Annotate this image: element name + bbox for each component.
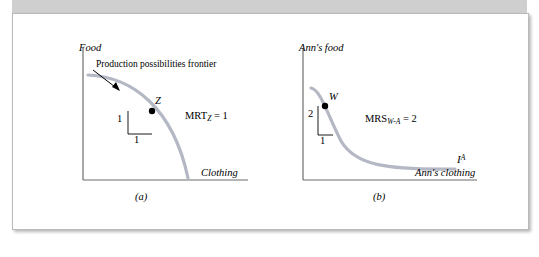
- panel-b: Ann's food W 2 1 MRSW-A = 2 IA Ann's clo…: [265, 28, 508, 213]
- point-z: [149, 108, 155, 114]
- ppf-curve: [88, 75, 188, 178]
- figure-root: Food Production possibilities frontier Z…: [0, 0, 539, 257]
- indifference-curve-label: IA: [457, 153, 465, 165]
- panel-b-caption: (b): [373, 191, 385, 202]
- panel-b-equation-sub: W-A: [387, 117, 400, 126]
- top-grey-band: [12, 0, 527, 13]
- panel-a-graphic: [33, 28, 263, 213]
- panel-b-equation-rest: = 2: [400, 113, 416, 124]
- panel-a-rise-label: 1: [117, 113, 122, 124]
- panel-a: Food Production possibilities frontier Z…: [33, 28, 263, 213]
- panel-b-rise-label: 2: [308, 108, 313, 119]
- panel-a-equation: MRTZ = 1: [185, 110, 228, 121]
- panel-a-equation-main: MRT: [185, 110, 207, 121]
- panel-b-run-label: 1: [320, 135, 325, 146]
- panel-a-x-axis-label: Clothing: [201, 167, 238, 178]
- panel-b-equation: MRSW-A = 2: [365, 113, 417, 124]
- point-w-label: W: [329, 91, 338, 102]
- ppf-label: Production possibilities frontier: [96, 59, 216, 69]
- indifference-curve-label-sup: A: [461, 153, 466, 162]
- figure-inner: Food Production possibilities frontier Z…: [33, 28, 508, 213]
- panel-b-y-axis-label: Ann's food: [299, 42, 344, 53]
- panel-a-caption: (a): [135, 191, 147, 202]
- panel-b-x-axis-label: Ann's clothing: [415, 167, 475, 178]
- panel-a-equation-sub: Z: [207, 114, 211, 123]
- panel-a-equation-rest: = 1: [211, 110, 227, 121]
- panel-b-equation-main: MRS: [365, 113, 387, 124]
- ppf-pointer-arrow: [112, 82, 120, 91]
- point-w: [322, 103, 328, 109]
- panel-a-y-axis-label: Food: [79, 42, 101, 53]
- point-z-label: Z: [155, 95, 161, 106]
- figure-card: Food Production possibilities frontier Z…: [12, 13, 529, 230]
- panel-a-run-label: 1: [134, 134, 139, 145]
